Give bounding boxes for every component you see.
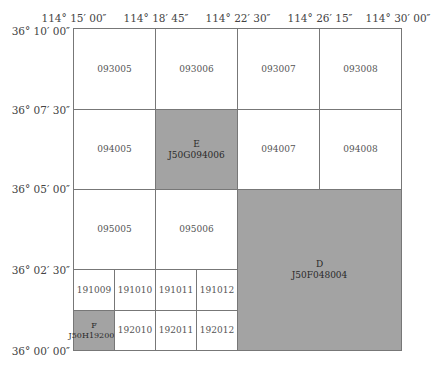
- x-axis-label-2: 114° 18′ 45″: [124, 12, 189, 24]
- y-axis-label-4: 36° 02′ 30″: [12, 264, 70, 276]
- sheet-code: J50F048004: [292, 270, 348, 281]
- map-sheet-E: E J50G094006: [155, 109, 238, 190]
- map-sheet-192012: 192012: [196, 310, 238, 351]
- map-sheet-093008: 093008: [319, 28, 402, 110]
- map-sheet-191012: 191012: [196, 269, 238, 311]
- sheet-code: 192011: [159, 325, 193, 336]
- y-axis-label-1: 36° 10′ 00″: [12, 25, 70, 37]
- map-sheet-093005: 093005: [73, 28, 156, 110]
- map-sheet-093006: 093006: [155, 28, 238, 110]
- x-axis-label-4: 114° 26′ 15″: [288, 12, 353, 24]
- sheet-code: 094007: [261, 144, 295, 155]
- sheet-letter: D: [316, 259, 323, 270]
- y-axis-label-3: 36° 05′ 00″: [12, 183, 70, 195]
- x-axis-label-5: 114° 30′ 00″: [366, 12, 431, 24]
- sheet-code: J50H192009: [69, 331, 120, 341]
- map-sheet-095006: 095006: [155, 189, 238, 270]
- map-sheet-095005: 095005: [73, 189, 156, 270]
- map-sheet-192011: 192011: [155, 310, 197, 351]
- map-sheet-F: F J50H192009: [73, 310, 115, 351]
- y-axis-label-2: 36° 07′ 30″: [12, 104, 70, 116]
- sheet-code: 192012: [200, 325, 234, 336]
- map-sheet-191010: 191010: [114, 269, 156, 311]
- sheet-code: 094008: [343, 144, 377, 155]
- x-axis-label-1: 114° 15′ 00″: [42, 12, 107, 24]
- sheet-code: 095005: [97, 224, 131, 235]
- map-sheet-094007: 094007: [237, 109, 320, 190]
- map-sheet-094008: 094008: [319, 109, 402, 190]
- map-sheet-192010: 192010: [114, 310, 156, 351]
- sheet-code: 093005: [97, 64, 131, 75]
- sheet-letter: E: [193, 139, 200, 150]
- sheet-code: 191010: [118, 285, 152, 296]
- sheet-code: 093006: [179, 64, 213, 75]
- sheet-code: 192010: [118, 325, 152, 336]
- sheet-code: 094005: [97, 144, 131, 155]
- map-sheet-191009: 191009: [73, 269, 115, 311]
- sheet-code: 093007: [261, 64, 295, 75]
- map-sheet-093007: 093007: [237, 28, 320, 110]
- sheet-letter: F: [91, 321, 97, 331]
- x-axis-label-3: 114° 22′ 30″: [206, 12, 271, 24]
- sheet-code: 095006: [179, 224, 213, 235]
- map-sheet-191011: 191011: [155, 269, 197, 311]
- sheet-code: 191012: [200, 285, 234, 296]
- y-axis-label-5: 36° 00′ 00″: [12, 345, 70, 357]
- sheet-code: 093008: [343, 64, 377, 75]
- sheet-code: 191009: [77, 285, 111, 296]
- sheet-code: J50G094006: [168, 150, 225, 161]
- sheet-code: 191011: [159, 285, 193, 296]
- map-sheet-094005: 094005: [73, 109, 156, 190]
- map-sheet-D: D J50F048004: [237, 189, 402, 351]
